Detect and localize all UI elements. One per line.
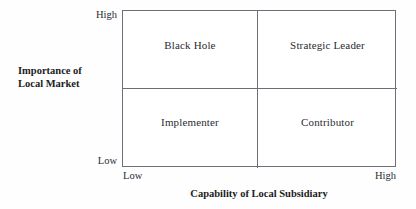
matrix-plot-area: Black Hole Strategic Leader Implementer …: [122, 10, 396, 167]
quadrant-label-contributor: Contributor: [258, 116, 397, 129]
y-axis-tick-high: High: [82, 9, 117, 21]
y-axis-tick-low: Low: [82, 155, 117, 167]
y-axis-title-line-2: Local Market: [18, 78, 116, 91]
y-axis-title-line-1: Importance of: [18, 65, 116, 78]
quadrant-label-strategic-leader: Strategic Leader: [258, 39, 397, 52]
quadrant-divider-vertical: [257, 11, 258, 168]
y-axis-title: Importance of Local Market: [18, 65, 116, 90]
x-axis-title: Capability of Local Subsidiary: [122, 188, 396, 201]
x-axis-tick-low: Low: [123, 170, 142, 182]
quadrant-label-implementer: Implementer: [123, 116, 257, 129]
quadrant-divider-horizontal: [123, 88, 397, 89]
quadrant-label-black-hole: Black Hole: [123, 39, 257, 52]
quadrant-matrix-figure: Importance of Local Market High Low Blac…: [0, 0, 416, 209]
x-axis-tick-high: High: [361, 170, 396, 182]
